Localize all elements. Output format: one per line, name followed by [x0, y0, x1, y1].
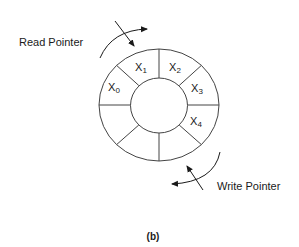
inner-ring: [131, 78, 188, 133]
read-direction-arc-icon: [100, 29, 147, 58]
cell-label-x1: X1: [135, 62, 147, 75]
divider: [117, 125, 139, 145]
read-pointer-label: Read Pointer: [19, 37, 83, 48]
figure-caption: (b): [147, 231, 160, 242]
read-pointer-arrows: [100, 21, 147, 58]
circular-buffer-diagram: X0 X1 X2 X3 X4 Read Pointer Write Pointe…: [0, 0, 299, 247]
cell-label-x0: X0: [108, 82, 120, 95]
cell-label-x2: X2: [169, 62, 181, 75]
cell-label-x3: X3: [191, 83, 203, 96]
ring-buffer: [99, 49, 219, 161]
read-pointer-arrow-icon: [115, 21, 134, 46]
cell-label-x4: X4: [190, 116, 202, 129]
write-pointer-label: Write Pointer: [217, 181, 280, 192]
